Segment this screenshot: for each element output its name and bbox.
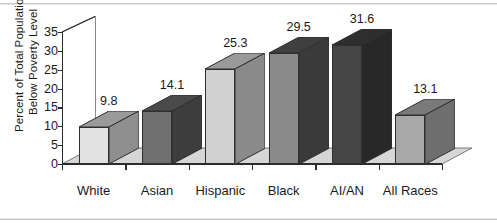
x-category-label: White <box>77 183 110 198</box>
bar-value-label: 13.1 <box>405 82 445 96</box>
y-tick-mark <box>58 70 63 71</box>
y-tick-label: 30 <box>44 44 58 58</box>
y-tick-mark <box>58 32 63 33</box>
bar-front-face <box>79 127 109 164</box>
bottom-border-rule-2 <box>0 218 497 219</box>
bar-side-face <box>172 95 202 164</box>
y-axis-depth-line <box>62 16 96 32</box>
chart-figure: Percent of Total Population Below Povert… <box>0 0 497 223</box>
x-tick-mark <box>252 164 253 170</box>
y-axis-tick-labels: 05101520253035 <box>30 12 58 180</box>
bar-value-label: 14.1 <box>152 78 192 92</box>
bottom-border-rule <box>0 219 497 220</box>
x-tick-mark <box>442 164 443 170</box>
x-tick-mark <box>125 164 126 170</box>
bar-front-face <box>269 53 299 164</box>
bar-front-face <box>332 45 362 164</box>
bar-side-face <box>299 37 329 164</box>
x-category-label: Hispanic <box>195 183 245 198</box>
x-category-label: AI/AN <box>330 183 364 198</box>
y-tick-label: 25 <box>44 63 58 77</box>
x-tick-mark <box>62 164 63 170</box>
x-category-label: Asian <box>141 183 174 198</box>
bar-front-face <box>395 115 425 164</box>
bar-ai-an[interactable] <box>332 29 392 164</box>
bar-value-label: 31.6 <box>342 12 382 26</box>
y-tick-mark <box>58 51 63 52</box>
top-border-rule-2 <box>0 4 497 5</box>
bar-hispanic[interactable] <box>205 53 265 164</box>
x-tick-mark <box>189 164 190 170</box>
plot-area: 9.814.125.329.531.613.1 <box>62 18 472 178</box>
y-tick-label: 35 <box>44 25 58 39</box>
bar-black[interactable] <box>269 37 329 164</box>
bar-value-label: 29.5 <box>279 20 319 34</box>
y-tick-label: 20 <box>44 82 58 96</box>
y-tick-label: 15 <box>44 100 58 114</box>
y-tick-mark <box>58 107 63 108</box>
x-category-label: Black <box>268 183 300 198</box>
x-tick-mark <box>315 164 316 170</box>
y-tick-mark <box>58 145 63 146</box>
bar-side-face <box>109 111 139 164</box>
bar-all-races[interactable] <box>395 99 455 164</box>
bar-side-face <box>235 53 265 164</box>
bar-side-face <box>362 29 392 164</box>
bar-value-label: 9.8 <box>89 94 129 108</box>
y-tick-label: 0 <box>51 157 58 171</box>
y-tick-mark <box>58 89 63 90</box>
y-axis-title-line-1: Percent of Total Population <box>13 0 27 132</box>
bar-front-face <box>205 69 235 164</box>
bar-front-face <box>142 111 172 164</box>
x-axis-category-labels: WhiteAsianHispanicBlackAI/ANAll Races <box>62 183 472 205</box>
y-tick-label: 10 <box>44 119 58 133</box>
bar-asian[interactable] <box>142 95 202 164</box>
bar-value-label: 25.3 <box>215 36 255 50</box>
y-tick-mark <box>58 126 63 127</box>
x-tick-mark <box>379 164 380 170</box>
y-tick-label: 5 <box>51 138 58 152</box>
bar-side-face <box>425 99 455 164</box>
bar-white[interactable] <box>79 111 139 164</box>
x-category-label: All Races <box>383 183 438 198</box>
